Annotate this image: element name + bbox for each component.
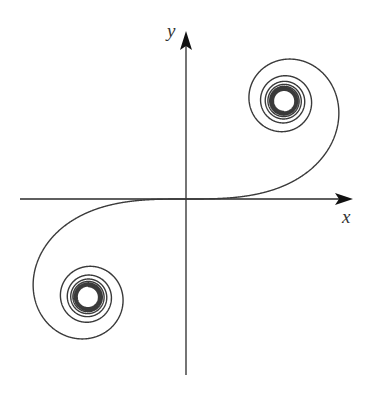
y-axis-label: y <box>167 20 175 42</box>
x-axis-label: x <box>342 206 350 228</box>
euler-spiral-diagram: y x <box>0 0 366 394</box>
plot-area <box>0 0 366 394</box>
